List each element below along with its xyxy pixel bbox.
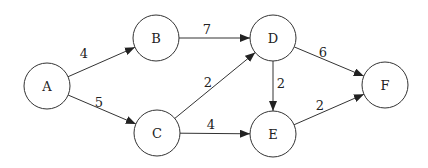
node-label: E — [268, 127, 278, 142]
edge-d-f — [294, 47, 364, 76]
edge-a-b — [68, 47, 135, 76]
edges-group: 45724262 — [68, 22, 364, 134]
node-label: A — [41, 79, 52, 94]
edge-weight-label: 2 — [316, 98, 324, 113]
edge-c-d — [175, 53, 255, 119]
edge-weight-label: 2 — [277, 76, 285, 91]
node-f: F — [362, 62, 408, 108]
graph-diagram: 45724262 ABCDEF — [0, 0, 428, 168]
edge-weight-label: 6 — [319, 45, 327, 60]
edge-c-e — [180, 133, 250, 134]
edge-weight-label: 5 — [95, 95, 103, 110]
node-label: D — [268, 31, 278, 46]
nodes-group: ABCDEF — [24, 15, 408, 157]
edge-weight-label: 2 — [204, 75, 212, 90]
node-b: B — [133, 15, 179, 61]
node-d: D — [250, 15, 296, 61]
node-a: A — [24, 63, 70, 109]
edge-weight-label: 7 — [203, 22, 211, 37]
edge-weight-label: 4 — [80, 46, 88, 61]
edge-e-f — [294, 94, 364, 125]
node-label: B — [151, 31, 161, 46]
node-label: F — [380, 78, 389, 93]
edge-weight-label: 4 — [207, 117, 215, 132]
node-e: E — [250, 111, 296, 157]
node-c: C — [134, 110, 180, 156]
node-label: C — [152, 126, 162, 141]
